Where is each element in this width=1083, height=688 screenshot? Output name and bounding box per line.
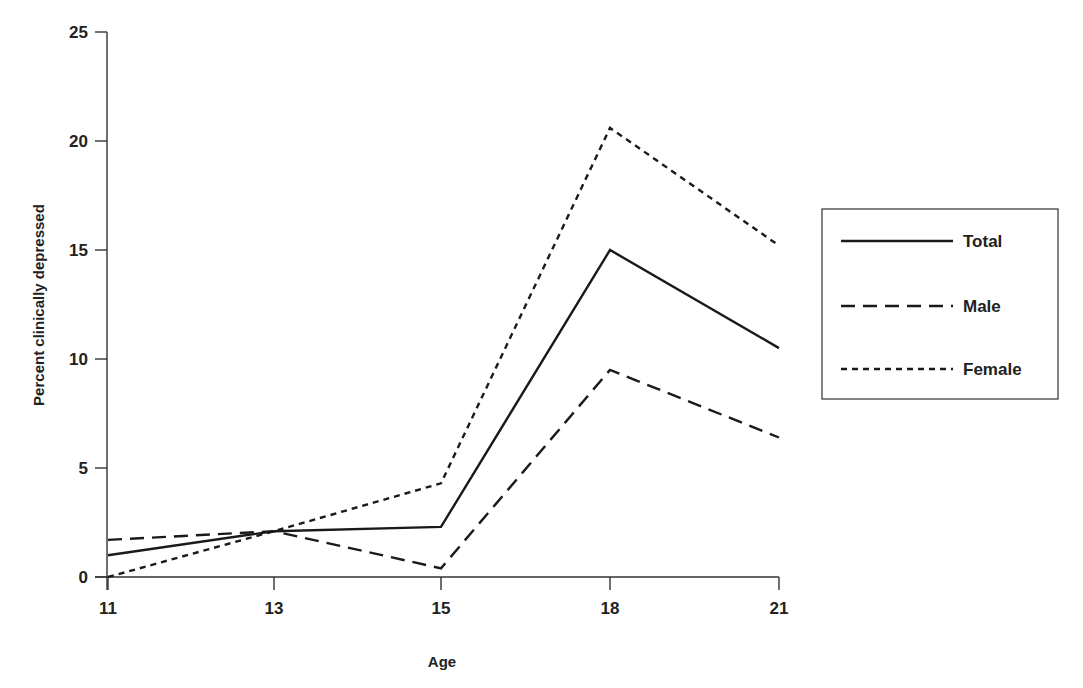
x-tick-label: 21 bbox=[770, 599, 789, 618]
y-tick-label: 0 bbox=[79, 568, 88, 587]
legend-box bbox=[822, 209, 1058, 399]
x-ticks: 1113151821 bbox=[99, 577, 788, 618]
y-tick-label: 15 bbox=[69, 241, 88, 260]
legend-male-label: Male bbox=[963, 297, 1001, 316]
series-male-line bbox=[108, 370, 779, 568]
x-tick-label: 13 bbox=[265, 599, 284, 618]
series-total-line bbox=[108, 250, 779, 555]
y-axis-title: Percent clinically depressed bbox=[30, 204, 47, 406]
x-tick-label: 15 bbox=[432, 599, 451, 618]
legend: Total Male Female bbox=[822, 209, 1058, 399]
y-tick-label: 25 bbox=[69, 23, 88, 42]
series-female-line bbox=[108, 128, 779, 577]
plot-area bbox=[108, 128, 779, 577]
x-tick-label: 11 bbox=[99, 599, 117, 618]
line-chart: 0510152025 Percent clinically depressed … bbox=[0, 0, 1083, 688]
y-ticks: 0510152025 bbox=[69, 23, 107, 587]
y-tick-label: 20 bbox=[69, 132, 88, 151]
x-tick-label: 18 bbox=[601, 599, 620, 618]
x-axis: 1113151821 Age bbox=[95, 577, 788, 670]
y-tick-label: 10 bbox=[69, 350, 88, 369]
legend-total-label: Total bbox=[963, 232, 1002, 251]
y-tick-label: 5 bbox=[79, 459, 88, 478]
x-axis-title: Age bbox=[428, 653, 456, 670]
legend-female-label: Female bbox=[963, 360, 1022, 379]
y-axis: 0510152025 Percent clinically depressed bbox=[30, 23, 107, 590]
